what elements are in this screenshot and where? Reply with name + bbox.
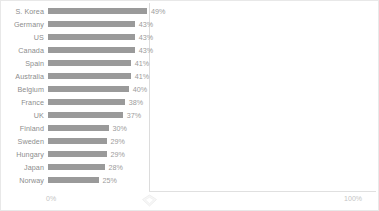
axis-line <box>149 191 376 192</box>
category-label: Germany <box>1 18 44 31</box>
bar-row: Belgium40% <box>1 83 379 96</box>
bar-value-label: 29% <box>111 135 125 148</box>
bar-row: Hungary29% <box>1 148 379 161</box>
category-label: Norway <box>1 174 44 187</box>
category-label: S. Korea <box>1 5 44 18</box>
category-label: Belgium <box>1 83 44 96</box>
bar[interactable] <box>48 34 135 40</box>
bar-row: US43% <box>1 31 379 44</box>
bar[interactable] <box>48 125 109 131</box>
category-label: France <box>1 96 44 109</box>
bar-row: Australia41% <box>1 70 379 83</box>
bar-value-label: 25% <box>103 174 117 187</box>
bar-value-label: 37% <box>127 109 141 122</box>
bar[interactable] <box>48 112 123 118</box>
bar-value-label: 41% <box>135 70 149 83</box>
bar[interactable] <box>48 8 147 14</box>
bar-value-label: 29% <box>111 148 125 161</box>
category-label: Canada <box>1 44 44 57</box>
category-label: US <box>1 31 44 44</box>
bar[interactable] <box>48 86 129 92</box>
bar[interactable] <box>48 177 99 183</box>
bar-row: Sweden29% <box>1 135 379 148</box>
bar-value-label: 43% <box>139 31 153 44</box>
diamond-marker <box>141 193 158 206</box>
bar-row: Canada43% <box>1 44 379 57</box>
category-label: Sweden <box>1 135 44 148</box>
category-label: Australia <box>1 70 44 83</box>
plot-area: S. Korea49%Germany43%US43%Canada43%Spain… <box>1 1 379 211</box>
category-label: Japan <box>1 161 44 174</box>
bar-value-label: 40% <box>133 83 147 96</box>
bar-row: Norway25% <box>1 174 379 187</box>
category-label: Finland <box>1 122 44 135</box>
bar[interactable] <box>48 73 131 79</box>
bar[interactable] <box>48 21 135 27</box>
bar-row: Japan28% <box>1 161 379 174</box>
bar-row: Finland30% <box>1 122 379 135</box>
bar-chart: S. Korea49%Germany43%US43%Canada43%Spain… <box>0 0 379 211</box>
bar-value-label: 30% <box>113 122 127 135</box>
bar-row: Spain41% <box>1 57 379 70</box>
bar[interactable] <box>48 138 107 144</box>
bar[interactable] <box>48 60 131 66</box>
bar-row: UK37% <box>1 109 379 122</box>
category-label: Spain <box>1 57 44 70</box>
bar-row: S. Korea49% <box>1 5 379 18</box>
bar-value-label: 38% <box>129 96 143 109</box>
axis-tick-max: 100% <box>344 194 362 203</box>
axis-tick-min: 0% <box>46 194 56 203</box>
bar-value-label: 28% <box>109 161 123 174</box>
bar[interactable] <box>48 164 105 170</box>
category-label: Hungary <box>1 148 44 161</box>
bar-value-label: 43% <box>139 44 153 57</box>
bar-row: France38% <box>1 96 379 109</box>
bar-row: Germany43% <box>1 18 379 31</box>
bar[interactable] <box>48 151 107 157</box>
bar-value-label: 41% <box>135 57 149 70</box>
bar-value-label: 43% <box>139 18 153 31</box>
category-label: UK <box>1 109 44 122</box>
bar[interactable] <box>48 99 125 105</box>
bar[interactable] <box>48 47 135 53</box>
bar-value-label: 49% <box>151 5 165 18</box>
